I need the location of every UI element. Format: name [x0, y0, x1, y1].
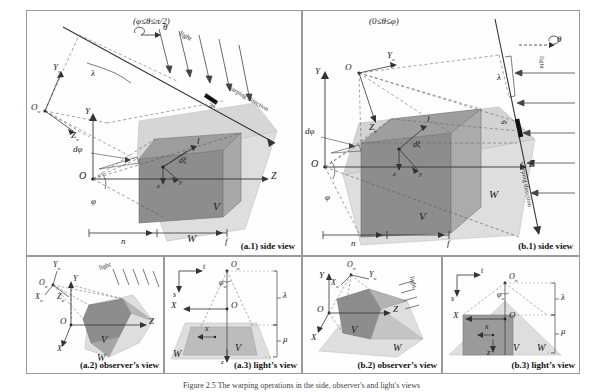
b1-small-y-label: y: [419, 171, 422, 178]
a2-caption: (a.2) observer’s view: [80, 361, 159, 370]
a3-origin-w-sub: w: [237, 266, 240, 271]
figure-container: (φ≤θ≤π/2) θ light warping direction λ ds…: [0, 0, 603, 392]
a3-small-x-label: x: [205, 325, 209, 333]
axis-Yw-line: [351, 275, 369, 279]
b3-axis-s-label: s: [451, 295, 454, 303]
b3-small-z-label: z: [487, 349, 490, 357]
b2-frustum-V-label: V: [351, 325, 357, 335]
a2-axis-Xw-label: Xw: [35, 293, 43, 303]
b1-Yw-sub: w: [392, 57, 395, 62]
frustum-V-front: [361, 133, 451, 237]
panel-a1-side-view: (φ≤θ≤π/2) θ light warping direction λ ds…: [26, 10, 302, 256]
b1-small-z-label: z: [393, 171, 396, 178]
theta-arc: [134, 27, 144, 35]
panel-a3-graphics: [165, 257, 303, 375]
b2-frustum-W-label: W: [393, 343, 401, 353]
b3-origin-w-sub: w: [515, 278, 518, 283]
b3-mu-label: μ: [561, 327, 566, 336]
a1-small-z-label: z: [157, 183, 160, 190]
figure-caption: Figure 2.5 The warping operations in the…: [0, 381, 603, 390]
a2-origin-w-sub: w: [45, 284, 48, 289]
b1-frustum-V-label: V: [419, 211, 426, 222]
axis-s-arrow: [454, 290, 460, 297]
b1-vector-l-label: l: [427, 115, 430, 124]
axis-Yw-line: [359, 65, 395, 73]
b3-axis-X-label: X: [453, 311, 459, 320]
a3-axis-X-label: X: [171, 301, 177, 310]
a1-axis-Zw-label: Zw: [71, 131, 79, 142]
light-rays: [113, 269, 159, 287]
a2-Yw-sub: w: [57, 266, 60, 271]
b2-Yw-sub: w: [373, 276, 376, 281]
b1-theta-label: θ: [557, 35, 561, 44]
b1-dphi-label: dφ: [305, 127, 314, 136]
a1-axis-Yw-label: Yw: [53, 63, 61, 74]
b1-dxi-label: dξ: [413, 141, 420, 149]
a2-axis-Zw-label: Zw: [57, 293, 64, 303]
panel-a3-light-view: t s Ow φw X O x z λ μ V W (a.3) light’s …: [164, 256, 302, 374]
axis-Z-arrow: [262, 176, 269, 182]
a1-far-label: f: [225, 237, 228, 246]
a1-axis-Y-label: Y: [85, 107, 90, 116]
b1-caption: (b.1) side view: [518, 242, 573, 251]
a1-caption: (a.1) side view: [241, 242, 295, 251]
a3-phi-w-label: φw: [219, 279, 226, 289]
a1-ds-label: ds: [209, 103, 215, 110]
a3-lambda-label: λ: [283, 291, 287, 300]
a3-phi-w-sub: w: [223, 284, 226, 289]
b1-lambda-label: λ: [497, 73, 501, 82]
b2-axis-Xw-label: Xw: [331, 279, 339, 289]
a1-theta-label: θ: [163, 23, 167, 32]
b2-axis-Z-label: Z: [393, 305, 398, 314]
a1-lambda-label: λ: [91, 69, 95, 78]
panel-b1-side-view: (0≤θ≤φ) θ light warping direction λ ds O…: [302, 10, 580, 256]
axis-Yw-line: [45, 73, 61, 111]
b1-origin-w-label: O: [345, 63, 352, 72]
b1-dphi-text: dφ: [305, 126, 314, 136]
a2-axis-Z-label: Z: [149, 317, 154, 326]
b3-small-x-label: x: [485, 323, 489, 331]
axis-Zw-line: [359, 73, 375, 121]
b1-axis-Yw-label: Yw: [387, 51, 395, 62]
b2-axis-X-label: X: [311, 333, 317, 342]
small-z-arrow: [224, 356, 230, 363]
panel-b1-graphics: [303, 11, 581, 257]
panel-a1-graphics: [27, 11, 303, 257]
b1-phi-label: φ: [325, 193, 330, 202]
small-origin-dot: [214, 336, 216, 338]
a1-vector-l-label: l: [197, 137, 200, 146]
b3-phi-w-sub: w: [501, 296, 504, 301]
theta-arrow: [549, 42, 555, 48]
lambda-bracket: [551, 283, 559, 315]
a3-frustum-W-label: W: [173, 349, 181, 359]
panel-a2-observer-view: light Ow Yw Xw Zw Y O X Z V W (a.2) obse…: [26, 256, 164, 374]
small-origin-dot: [492, 334, 494, 336]
b1-axis-Z-label: Z: [529, 159, 535, 169]
a1-phi-label: φ: [91, 197, 96, 206]
a1-Yw-sub: w: [58, 69, 61, 74]
a3-origin-label: O: [231, 301, 238, 310]
axis-Y-arrow: [321, 71, 329, 79]
b2-origin-w-sub: w: [353, 266, 356, 271]
panel-b3-light-view: t s Ow φw X O x z λ μ V W (b.3) light’s …: [442, 256, 580, 374]
a1-near-label: n: [121, 237, 126, 246]
b2-origin-w-label: Ow: [347, 261, 356, 271]
axis-Yw-line: [53, 271, 57, 285]
b2-axis-Yw-label: Yw: [369, 271, 376, 281]
b3-origin-label: O: [509, 311, 516, 320]
a1-origin-label: O: [79, 171, 86, 181]
a1-origin-w-label: Ow: [31, 103, 41, 114]
b3-frustum-V-label: V: [513, 343, 519, 353]
a3-axis-t-label: t: [203, 263, 205, 271]
dphi-leader: [321, 137, 353, 145]
a2-axis-X-label: X: [57, 345, 62, 353]
lambda-bracket: [273, 271, 281, 325]
a3-small-z-label: z: [221, 359, 224, 366]
mu-bracket: [273, 325, 281, 357]
near-arrow: [146, 230, 153, 236]
axis-X-arrow: [317, 326, 323, 333]
axis-s-arrow: [176, 286, 182, 293]
a2-Xw-sub: w: [40, 298, 43, 303]
b1-frustum-W-label: W: [489, 189, 498, 200]
a3-frustum-V-label: V: [235, 343, 241, 353]
